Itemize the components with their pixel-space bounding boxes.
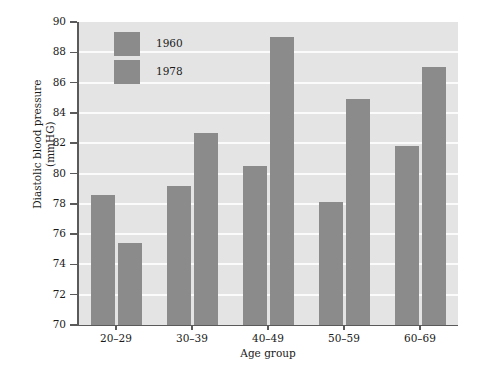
bar-1978-50–59 — [346, 99, 370, 325]
y-tick-mark — [70, 21, 77, 23]
y-tick-mark — [70, 112, 77, 114]
y-tick-mark — [70, 233, 77, 235]
bar-1960-30–39 — [167, 186, 191, 325]
x-tick-mark — [419, 325, 421, 330]
y-tick-mark — [70, 294, 77, 296]
bar-1960-60–69 — [395, 146, 419, 325]
y-tick-label: 72 — [26, 289, 66, 300]
y-tick-mark — [70, 52, 77, 54]
bar-1960-50–59 — [319, 202, 343, 325]
x-tick-mark — [115, 325, 117, 330]
bar-1960-20–29 — [91, 195, 115, 325]
y-axis-title: Diastolic blood pressure(mmHG) — [31, 24, 57, 264]
y-axis-title-line: (mmHG) — [44, 24, 57, 264]
bar-1978-40–49 — [270, 37, 294, 325]
bar-chart-figure: 1960 1978 7072747678808284868890 20–2930… — [0, 0, 480, 370]
legend: 1960 1978 — [114, 31, 234, 87]
y-tick-label: 70 — [26, 319, 66, 330]
x-tick-mark — [267, 325, 269, 330]
bar-1978-30–39 — [194, 133, 218, 325]
legend-swatch-1960 — [114, 32, 140, 56]
x-tick-mark — [191, 325, 193, 330]
bar-1978-20–29 — [118, 243, 142, 325]
legend-item-1978: 1978 — [114, 59, 234, 84]
x-tick-mark — [343, 325, 345, 330]
y-tick-mark — [70, 173, 77, 175]
y-tick-mark — [70, 203, 77, 205]
bar-1960-40–49 — [243, 166, 267, 325]
legend-swatch-1978 — [114, 60, 140, 84]
y-axis-title-line: Diastolic blood pressure — [31, 24, 44, 264]
x-axis-title: Age group — [78, 348, 458, 359]
plot-area: 1960 1978 — [78, 22, 458, 325]
x-tick-label: 60–69 — [375, 333, 465, 344]
y-tick-mark — [70, 82, 77, 84]
legend-label-1978: 1978 — [156, 66, 183, 77]
gridline — [78, 142, 458, 144]
y-tick-mark — [70, 142, 77, 144]
bar-1978-60–69 — [422, 67, 446, 325]
legend-label-1960: 1960 — [156, 38, 183, 49]
gridline — [78, 112, 458, 114]
legend-item-1960: 1960 — [114, 31, 234, 56]
y-tick-mark — [70, 264, 77, 266]
y-axis-line — [77, 22, 79, 325]
y-tick-mark — [70, 324, 77, 326]
